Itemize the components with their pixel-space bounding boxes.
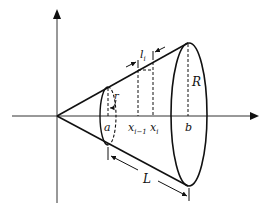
cone-outline bbox=[57, 43, 188, 186]
label-x-i: xi bbox=[150, 121, 158, 136]
cone-upper-edge bbox=[57, 43, 188, 116]
label-b: b bbox=[185, 121, 192, 134]
label-l-i: li bbox=[140, 48, 146, 63]
x-axis-arrow-icon bbox=[250, 112, 259, 120]
x-axis bbox=[12, 112, 259, 120]
cone-diagram: a xi−1 xi b R r li L bbox=[0, 0, 266, 211]
label-a: a bbox=[104, 121, 111, 134]
y-axis bbox=[53, 9, 61, 203]
label-r: r bbox=[114, 90, 120, 101]
label-x-prev: xi−1 bbox=[128, 121, 147, 136]
base-ellipse-b bbox=[171, 43, 207, 186]
cone-lower-edge bbox=[57, 116, 188, 186]
label-R: R bbox=[191, 75, 201, 89]
y-axis-arrow-icon bbox=[53, 9, 61, 19]
label-L: L bbox=[142, 172, 151, 186]
diagram-svg: a xi−1 xi b R r li L bbox=[0, 0, 266, 211]
